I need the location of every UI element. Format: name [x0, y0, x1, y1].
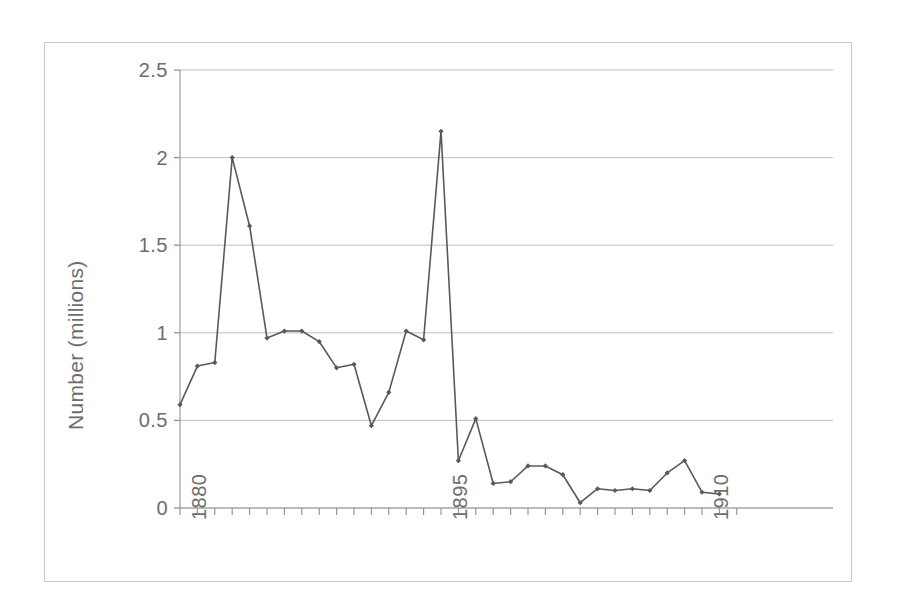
data-point-marker — [630, 486, 635, 491]
figure-canvas: 00.511.522.5 188018951910 Number (millio… — [0, 0, 900, 615]
x-tick-label: 1910 — [710, 474, 733, 521]
data-series-line — [180, 131, 719, 502]
x-tick-marks-group — [180, 508, 833, 515]
data-point-marker — [438, 129, 443, 134]
data-point-marker — [247, 223, 252, 228]
y-tick-label: 0 — [96, 497, 168, 520]
x-tick-label: 1880 — [188, 474, 211, 521]
y-tick-label: 1.5 — [96, 234, 168, 257]
gridlines-group — [174, 70, 833, 508]
data-point-marker — [212, 360, 217, 365]
y-axis-title: Number (millions) — [64, 260, 88, 430]
data-point-marker — [230, 155, 235, 160]
data-point-marker — [177, 402, 182, 407]
y-tick-label: 0.5 — [96, 409, 168, 432]
x-tick-label: 1895 — [449, 474, 472, 521]
data-point-marker — [421, 337, 426, 342]
data-point-marker — [491, 481, 496, 486]
y-tick-label: 2 — [96, 146, 168, 169]
data-point-marker — [264, 335, 269, 340]
chart-plot-area — [0, 0, 900, 615]
data-point-marker — [351, 362, 356, 367]
data-point-marker — [456, 458, 461, 463]
data-point-markers-group — [177, 129, 722, 506]
data-point-marker — [543, 463, 548, 468]
y-tick-label: 2.5 — [96, 59, 168, 82]
data-point-marker — [195, 363, 200, 368]
data-point-marker — [612, 488, 617, 493]
y-tick-label: 1 — [96, 321, 168, 344]
